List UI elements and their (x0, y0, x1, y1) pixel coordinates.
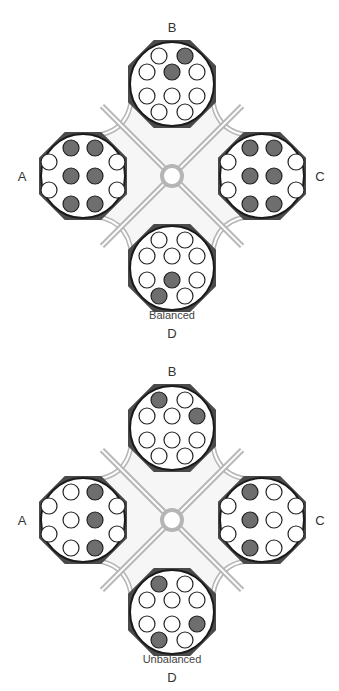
tube-empty (189, 64, 205, 80)
tube-filled (242, 168, 258, 184)
tube-empty (177, 632, 193, 648)
tube-filled (266, 196, 282, 212)
center-hub (162, 510, 182, 530)
tube-empty (139, 248, 155, 264)
tube-empty (164, 432, 180, 448)
pod-body (130, 386, 214, 470)
tube-empty (288, 154, 304, 170)
pod-label-a: A (18, 513, 27, 528)
tube-filled (151, 392, 167, 408)
tube-empty (220, 182, 236, 198)
panel-unbalanced: BACDUnbalanced (0, 344, 339, 688)
pod-label-b: B (168, 20, 177, 35)
tube-filled (242, 484, 258, 500)
tube-empty (288, 182, 304, 198)
tube-empty (220, 498, 236, 514)
tube-filled (151, 632, 167, 648)
tube-filled (164, 64, 180, 80)
tube-empty (139, 616, 155, 632)
tube-empty (189, 592, 205, 608)
tube-empty (288, 498, 304, 514)
tube-filled (87, 140, 103, 156)
tube-empty (139, 432, 155, 448)
tube-filled (242, 140, 258, 156)
tube-empty (177, 232, 193, 248)
pod-b (128, 40, 216, 128)
tube-empty (164, 616, 180, 632)
tube-filled (151, 288, 167, 304)
tube-empty (139, 272, 155, 288)
tube-filled (63, 168, 79, 184)
tube-filled (87, 540, 103, 556)
pod-body (220, 478, 304, 562)
tube-empty (266, 484, 282, 500)
tube-filled (87, 512, 103, 528)
pod-body (130, 226, 214, 310)
pod-label-d: D (167, 326, 176, 341)
tube-empty (189, 272, 205, 288)
tube-filled (87, 168, 103, 184)
tube-empty (151, 104, 167, 120)
tube-filled (266, 168, 282, 184)
tube-empty (41, 182, 57, 198)
tube-empty (139, 592, 155, 608)
pod-body (41, 478, 125, 562)
panel-caption: Unbalanced (143, 653, 202, 665)
tube-filled (266, 140, 282, 156)
tube-empty (288, 526, 304, 542)
pod-label-b: B (168, 364, 177, 379)
pod-b (128, 384, 216, 472)
tube-empty (164, 88, 180, 104)
tube-empty (139, 408, 155, 424)
center-hub (162, 166, 182, 186)
pod-body (41, 134, 125, 218)
tube-filled (242, 196, 258, 212)
pod-body (130, 570, 214, 654)
tube-empty (266, 512, 282, 528)
pod-body (130, 42, 214, 126)
tube-empty (109, 182, 125, 198)
pod-label-c: C (315, 513, 324, 528)
tube-empty (189, 432, 205, 448)
pod-label-c: C (315, 169, 324, 184)
tube-empty (177, 576, 193, 592)
tube-empty (164, 248, 180, 264)
tube-empty (189, 88, 205, 104)
tube-filled (189, 408, 205, 424)
tube-empty (177, 288, 193, 304)
tube-empty (63, 540, 79, 556)
tube-empty (177, 104, 193, 120)
tube-filled (164, 272, 180, 288)
tube-empty (266, 540, 282, 556)
tube-empty (109, 154, 125, 170)
tube-empty (63, 484, 79, 500)
pod-body (220, 134, 304, 218)
pod-d (128, 224, 216, 312)
tube-empty (220, 526, 236, 542)
tube-empty (63, 512, 79, 528)
rotor-svg (0, 0, 339, 344)
rotor-svg (0, 344, 339, 688)
tube-empty (41, 498, 57, 514)
tube-filled (151, 576, 167, 592)
panel-balanced: BACDBalanced (0, 0, 339, 344)
tube-empty (41, 526, 57, 542)
pod-c (218, 476, 306, 564)
tube-empty (151, 232, 167, 248)
tube-filled (63, 140, 79, 156)
tube-empty (164, 592, 180, 608)
tube-filled (87, 484, 103, 500)
pod-c (218, 132, 306, 220)
tube-empty (220, 154, 236, 170)
tube-empty (151, 48, 167, 64)
tube-empty (41, 154, 57, 170)
tube-empty (139, 88, 155, 104)
tube-filled (242, 512, 258, 528)
pod-a (39, 132, 127, 220)
pod-d (128, 568, 216, 656)
pod-label-a: A (18, 169, 27, 184)
tube-empty (151, 448, 167, 464)
tube-empty (109, 498, 125, 514)
panel-caption: Balanced (149, 309, 195, 321)
tube-filled (177, 48, 193, 64)
